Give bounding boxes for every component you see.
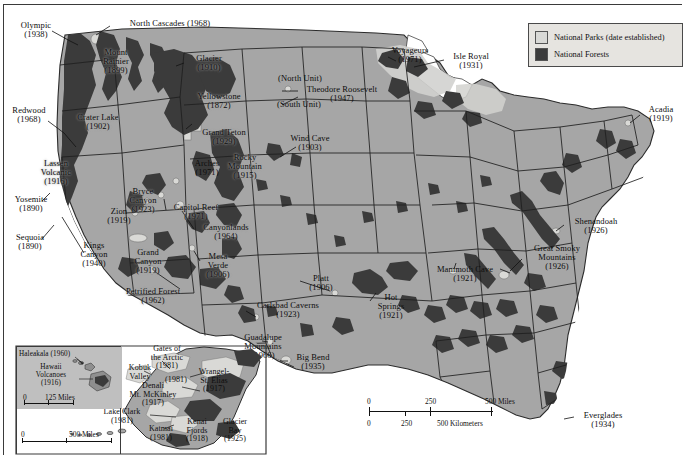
- scale-km-0: 0: [367, 419, 371, 428]
- label-wind-cave: Wind Cave (1903): [285, 134, 335, 152]
- label-olympic: Olympic (1938): [10, 21, 62, 39]
- label-sequoia: Sequoia (1890): [8, 233, 52, 251]
- label-crater-lake: Crater Lake (1902): [70, 113, 126, 131]
- label-zion: Zion (1919): [102, 207, 136, 225]
- label-guadalupe-mountains: Guadalupe Mountains (1966): [235, 333, 291, 361]
- hawaii-scale-tick-125: 125 Miles: [45, 393, 75, 402]
- label-wrangell-st-elias: Wrangel- St. Elias (1917): [192, 368, 236, 394]
- label-acadia: Acadia (1919): [641, 105, 681, 123]
- hawaii-inset: Haleakala (1960) Hawaii Volcanoes (1916)…: [16, 346, 121, 408]
- legend-national-parks-label: National Parks (date established): [554, 33, 664, 42]
- label-north-cascades: North Cascades (1968): [112, 19, 228, 28]
- national-parks-map: Olympic (1938) North Cascades (1968) Mou…: [0, 0, 687, 461]
- legend-national-forests-label: National Forests: [554, 50, 609, 59]
- map-legend: National Parks (date established) Nation…: [528, 23, 683, 67]
- national-forests-swatch: [535, 48, 548, 61]
- label-great-smoky-mountains: Great Smoky Mountains (1926): [526, 244, 588, 272]
- scale-miles-250: 250: [425, 397, 436, 406]
- label-canyonlands: Canyonlands (1964): [195, 223, 257, 241]
- label-redwood: Redwood (1968): [6, 106, 52, 124]
- label-carlsbad-caverns: Carlsbad Caverns (1923): [247, 301, 329, 319]
- label-glacier-bay: Glacier Bay (1925): [216, 418, 254, 444]
- label-isle-royal: Isle Royal (1931): [447, 52, 495, 70]
- label-lassen-volcanic: Lassen Volcanic (1916): [34, 159, 78, 187]
- label-katmai: Katmai (1981): [141, 425, 181, 442]
- label-mount-rainier: Mount Rainier (1899): [93, 48, 139, 76]
- label-yellowstone: Yellowstone (1872): [189, 92, 249, 110]
- label-grand-canyon: Grand Canyon (1919): [126, 248, 170, 276]
- label-everglades: Everglades (1934): [576, 411, 630, 429]
- label-voyageurs: Voyageurs (1971): [384, 46, 436, 64]
- label-petrified-forest: Petrified Forest (1962): [116, 287, 190, 305]
- label-haleakala: Haleakala (1960): [19, 350, 91, 358]
- label-arches: Arches (1971): [187, 159, 227, 177]
- label-denali-mt-mckinley: Denali Mt. McKinley (1917): [120, 382, 186, 408]
- scale-km-250: 250: [401, 419, 412, 428]
- label-north-unit: (North Unit): [272, 74, 328, 83]
- label-big-bend: Big Bend (1935): [289, 353, 337, 371]
- label-glacier: Glacier (1910): [187, 54, 231, 72]
- label-mesa-verde: Mesa Verde (1906): [198, 252, 238, 280]
- label-hawaii-volcanoes: Hawaii Volcanoes (1916): [25, 363, 77, 387]
- scale-miles-0: 0: [367, 397, 371, 406]
- label-south-unit: (South Unit): [270, 100, 328, 109]
- label-shenandoah: Shenandoah (1926): [567, 217, 625, 235]
- label-platt: Platt (1906): [304, 274, 338, 292]
- label-kobuk-valley: Kobuk Valley: [122, 364, 158, 381]
- alaska-inset-scale-box: 0 500 Miles: [16, 408, 121, 454]
- label-kenai-fjords: Kenai Fjords (1918): [178, 418, 216, 444]
- label-capitol-reef: Capitol Reef (1971): [167, 203, 225, 221]
- legend-row-national-parks: National Parks (date established): [535, 31, 676, 44]
- alaska-scale-bar: 0 500 Miles: [21, 430, 117, 446]
- hawaii-scale-bar: 0 125 Miles: [23, 393, 81, 407]
- map-frame: Olympic (1938) North Cascades (1968) Mou…: [3, 4, 682, 455]
- label-grand-teton: Grand Teton (1929): [193, 128, 255, 146]
- legend-row-national-forests: National Forests: [535, 48, 676, 61]
- scale-km-500: 500 Kilometers: [437, 419, 483, 428]
- label-rocky-mountain: Rocky Mountain (1915): [222, 153, 268, 181]
- label-mammoth-cave: Mammoth Cave (1921): [428, 265, 502, 283]
- label-yosemite: Yosemite (1890): [9, 195, 53, 213]
- alaska-scale-tick-500: 500 Miles: [69, 430, 99, 439]
- scale-miles-500: 500 Miles: [485, 397, 515, 406]
- label-kings-canyon: Kings Canyon (1940): [73, 241, 115, 269]
- main-scale-bar: 0 250 500 Miles 0 250 500 Kilometers: [367, 397, 527, 439]
- national-parks-swatch: [535, 31, 548, 44]
- label-hot-springs: Hot Springs (1921): [371, 293, 411, 321]
